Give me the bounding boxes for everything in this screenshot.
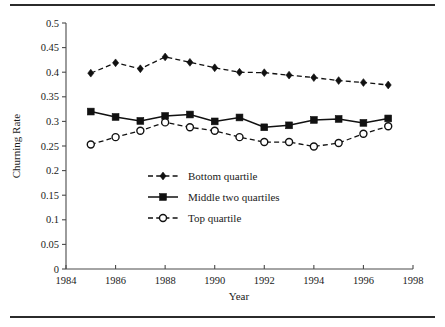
- x-axis-tick-label: 1998: [403, 275, 424, 286]
- series-1: [88, 53, 392, 89]
- data-point-square: [211, 118, 218, 125]
- data-point-diamond: [113, 59, 119, 67]
- data-point-diamond: [137, 65, 143, 73]
- data-point-circle: [211, 127, 218, 134]
- y-axis-tick-label: 0.1: [46, 214, 59, 225]
- data-point-diamond: [336, 77, 342, 85]
- data-point-circle: [385, 123, 392, 130]
- data-point-square: [160, 194, 167, 201]
- data-point-diamond: [311, 74, 317, 82]
- y-axis-tick-label: 0.4: [46, 67, 60, 78]
- data-point-circle: [261, 139, 268, 146]
- y-axis-title: Churning Rate: [10, 114, 22, 179]
- data-point-circle: [160, 215, 167, 222]
- series-3: [87, 119, 391, 150]
- y-axis-tick-label: 0.5: [46, 18, 59, 29]
- data-point-circle: [112, 134, 119, 141]
- y-axis: 00.050.10.150.20.250.30.350.40.450.5: [41, 18, 66, 275]
- y-axis-tick-label: 0.25: [41, 141, 59, 152]
- data-point-diamond: [212, 64, 218, 72]
- y-axis-tick-label: 0.3: [46, 116, 59, 127]
- data-point-circle: [87, 141, 94, 148]
- data-point-circle: [162, 119, 169, 126]
- x-axis-tick-label: 1994: [303, 275, 325, 286]
- chart-legend: Bottom quartileMiddle two quartilesTop q…: [148, 170, 280, 224]
- top-rule-divider: [10, 4, 435, 6]
- x-axis-tick-label: 1992: [254, 275, 275, 286]
- data-point-square: [385, 115, 392, 122]
- y-axis-tick-label: 0.2: [46, 165, 59, 176]
- data-point-diamond: [261, 69, 267, 77]
- data-point-diamond: [162, 53, 168, 61]
- data-point-square: [360, 119, 367, 126]
- data-point-diamond: [385, 81, 391, 89]
- data-point-diamond: [88, 69, 94, 77]
- x-axis-title: Year: [229, 290, 250, 302]
- data-point-square: [261, 124, 268, 131]
- x-axis-tick-label: 1984: [56, 275, 78, 286]
- data-point-diamond: [187, 58, 193, 66]
- y-axis-tick-label: 0.15: [41, 190, 59, 201]
- data-point-square: [335, 116, 342, 123]
- legend-item: Bottom quartile: [148, 170, 257, 182]
- y-axis-tick-label: 0.45: [41, 42, 59, 53]
- plot-series-group: [87, 53, 391, 150]
- data-point-circle: [310, 143, 317, 150]
- figure-container: 00.050.10.150.20.250.30.350.40.450.5 198…: [0, 0, 445, 327]
- legend-label: Top quartile: [188, 212, 241, 224]
- legend-item: Top quartile: [148, 212, 241, 224]
- data-point-diamond: [360, 79, 366, 87]
- legend-item: Middle two quartiles: [148, 191, 280, 203]
- data-point-square: [310, 117, 317, 124]
- x-axis-tick-label: 1996: [353, 275, 374, 286]
- data-point-diamond: [160, 172, 166, 180]
- series-2: [87, 108, 391, 131]
- x-axis: 19841986198819901992199419961998: [56, 265, 424, 286]
- data-point-square: [187, 111, 194, 118]
- x-axis-tick-label: 1988: [155, 275, 176, 286]
- data-point-square: [137, 118, 144, 125]
- y-axis-tick-label: 0.35: [41, 91, 59, 102]
- legend-label: Middle two quartiles: [188, 191, 280, 203]
- legend-label: Bottom quartile: [188, 170, 257, 182]
- data-point-circle: [286, 139, 293, 146]
- data-point-square: [286, 122, 293, 129]
- data-point-circle: [137, 127, 144, 134]
- data-point-circle: [186, 124, 193, 131]
- data-point-circle: [335, 140, 342, 147]
- data-point-square: [87, 108, 94, 115]
- data-point-diamond: [286, 71, 292, 79]
- data-point-diamond: [236, 68, 242, 76]
- bottom-rule-divider: [10, 316, 435, 318]
- churning-rate-line-chart: 00.050.10.150.20.250.30.350.40.450.5 198…: [0, 0, 445, 327]
- x-axis-tick-label: 1990: [204, 275, 225, 286]
- data-point-circle: [236, 134, 243, 141]
- data-point-square: [112, 114, 119, 121]
- x-axis-tick-label: 1986: [105, 275, 126, 286]
- data-point-circle: [360, 130, 367, 137]
- y-axis-tick-label: 0.05: [41, 239, 59, 250]
- y-axis-tick-label: 0: [54, 264, 59, 275]
- data-point-square: [236, 114, 243, 121]
